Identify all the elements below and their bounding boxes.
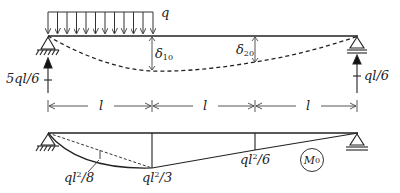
left-reaction-label: 5ql/6 xyxy=(6,72,39,85)
moment-diagram-name-circle: M0 xyxy=(300,148,324,172)
moment-base: ql xyxy=(240,152,252,167)
left-reaction-arrow xyxy=(44,58,52,93)
distributed-load xyxy=(48,12,153,33)
moment-base: ql xyxy=(64,170,76,185)
right-reaction-arrow xyxy=(353,55,361,93)
load-arrows xyxy=(48,12,153,33)
moment-label-ql2-3: ql2/3 xyxy=(142,171,172,184)
bottom-left-pin-support xyxy=(36,134,59,151)
delta-symbol: δ xyxy=(155,46,163,61)
moment-divisor: /6 xyxy=(258,152,271,167)
bottom-right-roller-support xyxy=(346,134,368,150)
right-reaction-label: ql/6 xyxy=(364,69,389,82)
span-label-3: l xyxy=(306,99,310,112)
moment-label-ql2-6: ql2/6 xyxy=(240,153,270,166)
moment-divisor: /8 xyxy=(82,170,95,185)
moment-base: ql xyxy=(142,170,154,185)
diagram-name-subscript: 0 xyxy=(315,156,320,165)
moment-label-ql2-8: ql2/8 xyxy=(64,171,94,184)
load-label-q: q xyxy=(161,6,169,19)
moment-divisor: /3 xyxy=(160,170,173,185)
delta-symbol: δ xyxy=(236,42,244,57)
deflection-curve xyxy=(48,36,358,71)
diagram-name-base: M xyxy=(304,154,315,167)
delta-subscript: 10 xyxy=(163,53,173,62)
delta20-label: δ20 xyxy=(236,43,254,58)
span-label-2: l xyxy=(203,99,207,112)
diagram-drawing xyxy=(0,0,400,193)
span-label-1: l xyxy=(99,99,103,112)
delta10-label: δ10 xyxy=(155,47,173,62)
beam-diagram: q δ10 δ20 5ql/6 ql/6 l l l ql2/8 ql2/3 q… xyxy=(0,0,400,193)
delta-subscript: 20 xyxy=(244,49,254,58)
